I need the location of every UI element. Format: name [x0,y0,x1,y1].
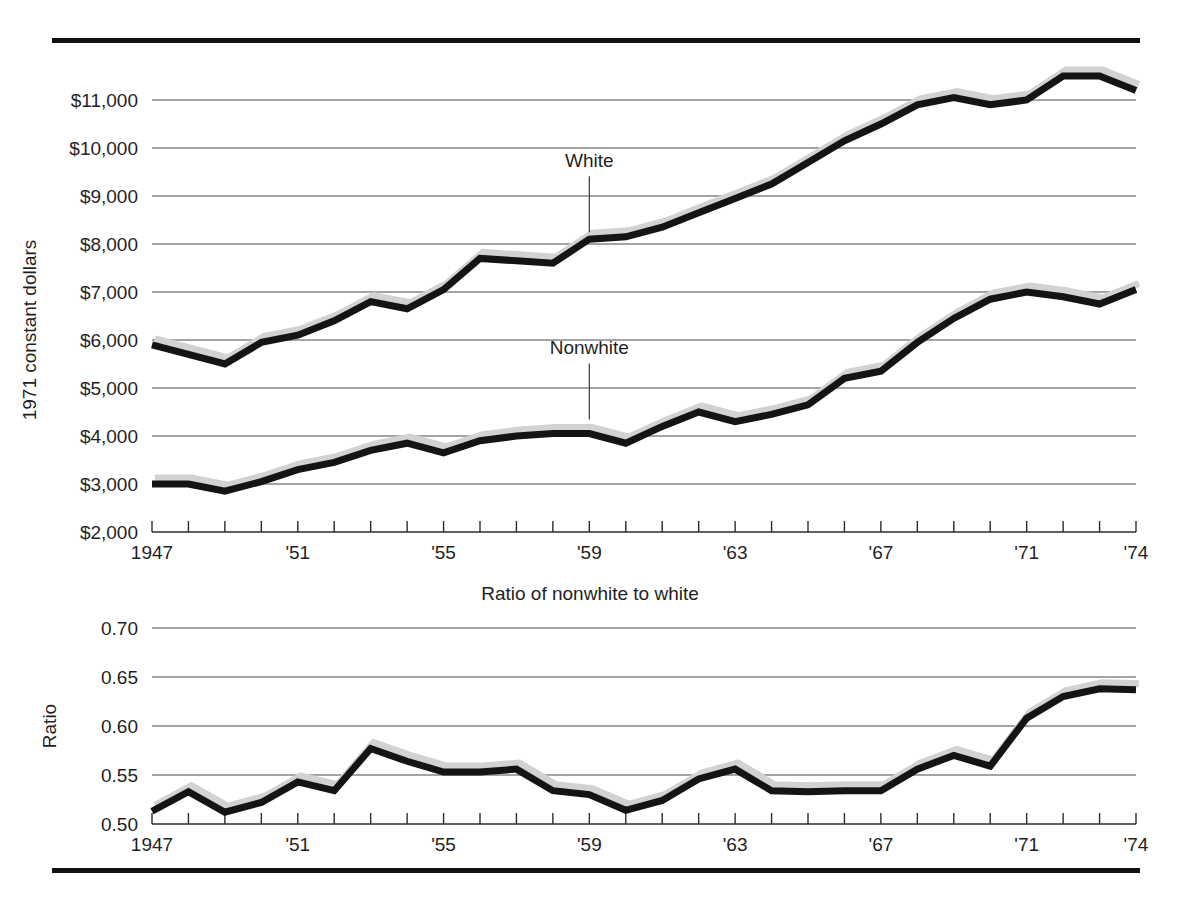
income-y-tick-label: $4,000 [80,426,138,447]
ratio-x-tick-label: '67 [869,834,894,855]
income-x-tick-label: 1947 [131,542,173,563]
income-series-lines [152,70,1139,491]
income-y-tick-labels: $11,000$10,000$9,000$8,000$7,000$6,000$5… [69,90,138,543]
ratio-gridlines [152,628,1136,775]
ratio-x-tick-label: '51 [285,834,310,855]
income-y-tick-label: $8,000 [80,234,138,255]
ratio-y-axis-title: Ratio [39,704,60,748]
ratio-series-line [152,689,1136,812]
income-series-line-white [152,76,1136,364]
income-x-tick-label: '51 [285,542,310,563]
income-x-tick-label: '63 [723,542,748,563]
income-x-axis [152,521,1136,532]
income-y-tick-label: $5,000 [80,378,138,399]
income-y-tick-label: $7,000 [80,282,138,303]
ratio-series-shadow [155,683,1139,806]
chart-svg: $11,000$10,000$9,000$8,000$7,000$6,000$5… [0,0,1182,899]
income-x-tick-label: '74 [1124,542,1149,563]
income-y-axis-title: 1971 constant dollars [19,240,40,421]
income-y-tick-label: $11,000 [71,90,138,111]
bottom-rule [52,868,1140,873]
income-series-annotations: WhiteNonwhite [550,150,629,419]
ratio-y-tick-labels: 0.700.650.600.550.50 [101,618,138,835]
income-series-shadow-white [155,70,1139,358]
ratio-y-tick-label: 0.55 [101,765,138,786]
ratio-y-tick-label: 0.60 [101,716,138,737]
income-y-tick-label: $10,000 [69,138,138,159]
top-rule [52,38,1140,43]
ratio-y-tick-label: 0.50 [101,814,138,835]
income-series-label-nonwhite: Nonwhite [550,337,629,358]
income-y-tick-label: $9,000 [80,186,138,207]
income-x-tick-label: '71 [1014,542,1039,563]
ratio-x-tick-label: '59 [577,834,602,855]
income-x-tick-label: '67 [869,542,894,563]
ratio-x-tick-label: '71 [1014,834,1039,855]
income-series-label-white: White [565,150,614,171]
income-chart-panel: $11,000$10,000$9,000$8,000$7,000$6,000$5… [19,70,1149,563]
income-y-tick-label: $2,000 [80,522,138,543]
ratio-y-tick-label: 0.70 [101,618,138,639]
income-y-tick-label: $6,000 [80,330,138,351]
income-series-shadow-nonwhite [155,284,1139,486]
ratio-chart-panel: Ratio of nonwhite to white 0.700.650.600… [39,583,1149,855]
ratio-series-line [152,683,1139,812]
ratio-y-tick-label: 0.65 [101,667,138,688]
income-x-tick-label: '55 [431,542,456,563]
income-x-tick-labels: 1947'51'55'59'63'67'71'74 [131,542,1149,563]
ratio-x-axis [152,813,1136,824]
income-y-tick-label: $3,000 [80,474,138,495]
income-x-tick-label: '59 [577,542,602,563]
ratio-x-tick-label: '63 [723,834,748,855]
ratio-x-tick-label: '74 [1124,834,1149,855]
ratio-x-tick-label: 1947 [131,834,173,855]
ratio-x-tick-label: '55 [431,834,456,855]
ratio-x-tick-labels: 1947'51'55'59'63'67'71'74 [131,834,1149,855]
ratio-chart-title: Ratio of nonwhite to white [481,583,699,604]
figure-container: $11,000$10,000$9,000$8,000$7,000$6,000$5… [0,0,1182,899]
